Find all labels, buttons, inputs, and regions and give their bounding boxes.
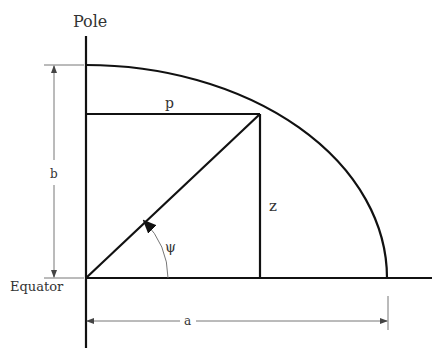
ellipse-arc bbox=[86, 65, 387, 278]
psi-label: ψ bbox=[165, 239, 176, 255]
equator-label: Equator bbox=[10, 279, 64, 294]
b-label: b bbox=[50, 167, 58, 181]
diagram-svg: Pole Equator p z b a ψ bbox=[0, 0, 441, 364]
pole-label: Pole bbox=[73, 12, 107, 31]
a-label: a bbox=[184, 314, 191, 328]
z-label: z bbox=[269, 197, 277, 215]
ellipse-diagram: Pole Equator p z b a ψ bbox=[0, 0, 441, 364]
p-label: p bbox=[165, 95, 174, 111]
